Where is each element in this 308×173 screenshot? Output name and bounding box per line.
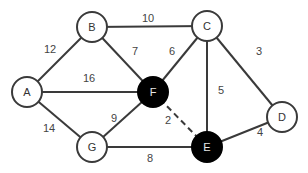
node-f-label: F — [150, 86, 157, 98]
weight-e-d: 4 — [257, 126, 263, 138]
weight-c-f: 6 — [169, 45, 175, 57]
weight-b-c: 10 — [142, 12, 154, 24]
node-d: D — [267, 102, 297, 132]
node-g-label: G — [88, 141, 97, 153]
weighted-graph-diagram: 12 10 7 16 6 3 5 14 9 2 8 4 A B C D F G … — [0, 0, 308, 173]
node-f: F — [138, 77, 168, 107]
node-a-label: A — [23, 86, 31, 98]
node-e: E — [192, 132, 222, 162]
weight-a-b: 12 — [44, 43, 56, 55]
edge-b-c — [92, 26, 207, 27]
weight-c-e: 5 — [218, 84, 224, 96]
node-b: B — [77, 12, 107, 42]
weight-g-f: 9 — [111, 112, 117, 124]
weight-a-f: 16 — [83, 72, 95, 84]
weight-c-d: 3 — [256, 45, 262, 57]
node-a: A — [12, 77, 42, 107]
node-b-label: B — [88, 21, 95, 33]
node-c: C — [192, 11, 222, 41]
node-c-label: C — [203, 20, 211, 32]
edge-c-d — [207, 26, 282, 117]
node-e-label: E — [203, 141, 210, 153]
weight-a-g: 14 — [43, 122, 55, 134]
weight-g-e: 8 — [147, 152, 153, 164]
node-d-label: D — [278, 111, 286, 123]
weight-f-e: 2 — [165, 114, 171, 126]
node-g: G — [77, 132, 107, 162]
weight-b-f: 7 — [132, 45, 138, 57]
